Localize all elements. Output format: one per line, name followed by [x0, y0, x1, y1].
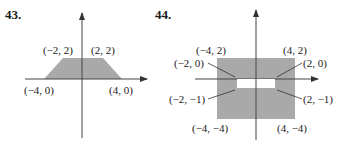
vertex-label: (2, −1): [303, 93, 333, 105]
vertex-label: (4, 2): [283, 44, 307, 56]
vertex-label: (4, −4): [277, 122, 307, 134]
vertex-label: (−2, −1): [169, 93, 205, 105]
figure-44-number: 44.: [155, 7, 171, 23]
vertex-label: (−2, 2): [43, 44, 73, 56]
vertex-label: (−4, 0): [24, 84, 54, 96]
vertex-label: (2, 0): [303, 57, 327, 69]
figure-43-graph: [25, 13, 147, 138]
trapezoid-region: [44, 58, 122, 79]
vertex-label: (−2, 0): [174, 57, 204, 69]
figure-44-graph: [195, 10, 318, 140]
vertex-label: (−4, −4): [192, 122, 228, 134]
vertex-label: (−4, 2): [196, 44, 226, 56]
vertex-label: (2, 2): [91, 44, 115, 56]
vertex-label: (4, 0): [109, 84, 133, 96]
